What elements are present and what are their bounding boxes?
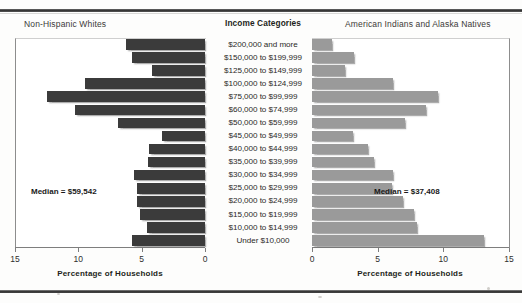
bar-right (312, 105, 509, 116)
bar-segment (312, 105, 426, 116)
category-label: $75,000 to $99,999 (206, 92, 320, 101)
left-axis-line (15, 247, 205, 248)
axis-tick (78, 248, 79, 252)
bar-left (15, 157, 205, 168)
right-median-label: Median = $37,408 (374, 187, 440, 196)
category-label: $150,000 to $199,999 (206, 53, 320, 62)
left-axis-title: Percentage of Households (57, 269, 163, 278)
right-panel-title: American Indians and Alaska Natives (345, 19, 491, 29)
category-label: $60,000 to $74,999 (206, 105, 320, 114)
axis-tick (443, 248, 444, 252)
bar-segment (126, 39, 205, 50)
bar-right (312, 144, 509, 155)
bar-segment (312, 91, 438, 102)
bar-right (312, 170, 509, 181)
category-label: $45,000 to $49,999 (206, 131, 320, 140)
category-label: $40,000 to $44,999 (206, 144, 320, 153)
top-rule (0, 9, 522, 12)
axis-tick-label: 0 (203, 254, 208, 264)
axis-tick-label: 15 (504, 254, 513, 264)
category-label: $10,000 to $14,999 (206, 223, 320, 232)
bar-left (15, 144, 205, 155)
paper-speck (57, 293, 60, 295)
bar-right (312, 131, 509, 142)
bar-right (312, 91, 509, 102)
bar-left (15, 78, 205, 89)
bar-left (15, 235, 205, 246)
bar-segment (85, 78, 205, 89)
bar-left (15, 131, 205, 142)
bar-segment (152, 65, 205, 76)
bar-left (15, 209, 205, 220)
bar-segment (132, 235, 205, 246)
bar-segment (140, 209, 205, 220)
axis-tick-label: 5 (139, 254, 144, 264)
axis-tick (205, 248, 206, 252)
paper-speck (318, 296, 322, 298)
axis-tick (15, 248, 16, 252)
left-median-label: Median = $59,542 (31, 187, 97, 196)
axis-tick-label: 10 (439, 254, 448, 264)
category-label: Under $10,000 (206, 236, 320, 245)
bar-segment (134, 170, 205, 181)
bar-right (312, 52, 509, 63)
bar-right (312, 39, 509, 50)
bar-right (312, 65, 509, 76)
bar-left (15, 105, 205, 116)
top-hairline (0, 13, 522, 14)
bar-segment (312, 196, 403, 207)
axis-tick (142, 248, 143, 252)
right-axis-line (312, 247, 509, 248)
bar-right (312, 118, 509, 129)
bar-segment (75, 105, 205, 116)
bar-segment (312, 118, 405, 129)
category-label: $15,000 to $19,999 (206, 210, 320, 219)
bar-segment (137, 183, 205, 194)
axis-tick-label: 0 (310, 254, 315, 264)
category-label: $50,000 to $59,999 (206, 118, 320, 127)
bar-segment (312, 170, 393, 181)
axis-tick-label: 10 (74, 254, 83, 264)
category-label: $25,000 to $29,999 (206, 183, 320, 192)
chart-page: Non-Hispanic Whites American Indians and… (0, 0, 522, 303)
category-label: $35,000 to $39,999 (206, 157, 320, 166)
category-label: $100,000 to $124,999 (206, 79, 320, 88)
left-panel-title: Non-Hispanic Whites (24, 19, 106, 29)
bar-segment (312, 235, 484, 246)
bar-left (15, 118, 205, 129)
bar-segment (312, 78, 393, 89)
bar-left (15, 91, 205, 102)
bar-right (312, 196, 509, 207)
bottom-rule (0, 290, 522, 293)
bar-segment (47, 91, 205, 102)
bar-segment (148, 157, 205, 168)
bar-segment (312, 209, 414, 220)
bar-right (312, 209, 509, 220)
axis-tick-label: 5 (375, 254, 380, 264)
bar-left (15, 52, 205, 63)
bar-left (15, 65, 205, 76)
category-label: $125,000 to $149,999 (206, 66, 320, 75)
bar-segment (147, 222, 205, 233)
axis-tick-label: 15 (10, 254, 19, 264)
bar-left (15, 39, 205, 50)
bar-segment (312, 157, 374, 168)
category-label: $20,000 to $24,999 (206, 196, 320, 205)
bar-segment (312, 222, 417, 233)
bar-right (312, 235, 509, 246)
right-axis-title: Percentage of Households (357, 269, 463, 278)
bar-segment (118, 118, 205, 129)
bar-segment (149, 144, 205, 155)
bar-left (15, 222, 205, 233)
income-categories-header: Income Categories (211, 18, 315, 28)
bar-right (312, 78, 509, 89)
bar-segment (162, 131, 205, 142)
bar-segment (312, 144, 368, 155)
bar-left (15, 196, 205, 207)
bar-right (312, 222, 509, 233)
axis-tick (378, 248, 379, 252)
bar-right (312, 157, 509, 168)
bar-segment (132, 52, 205, 63)
category-label: $30,000 to $34,999 (206, 170, 320, 179)
axis-tick (312, 248, 313, 252)
